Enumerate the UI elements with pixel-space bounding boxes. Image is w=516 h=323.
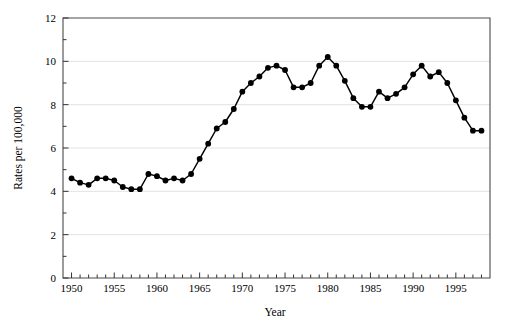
x-tick-label: 1970 <box>231 282 254 294</box>
data-point <box>410 71 416 77</box>
x-tick-label: 1975 <box>274 282 297 294</box>
data-point <box>342 78 348 84</box>
x-tick-label: 1950 <box>61 282 84 294</box>
x-tick-label: 1990 <box>402 282 425 294</box>
data-point <box>274 63 280 69</box>
data-point <box>94 175 100 181</box>
data-point <box>436 69 442 75</box>
y-tick-label: 10 <box>45 55 57 67</box>
data-point <box>128 186 134 192</box>
y-tick-label: 8 <box>51 99 57 111</box>
data-point <box>350 95 356 101</box>
y-tick-label: 0 <box>51 272 57 284</box>
data-point <box>479 128 485 134</box>
x-tick-label: 1985 <box>359 282 382 294</box>
data-point <box>163 178 169 184</box>
y-tick-label: 6 <box>51 142 57 154</box>
data-point <box>316 63 322 69</box>
data-point <box>146 171 152 177</box>
data-point <box>308 80 314 86</box>
data-point <box>77 180 83 186</box>
data-point <box>325 54 331 60</box>
data-point <box>171 175 177 181</box>
data-point <box>257 74 263 80</box>
y-axis-ticks <box>63 18 69 278</box>
series-line <box>72 57 482 189</box>
data-point <box>299 84 305 90</box>
data-point <box>444 80 450 86</box>
x-axis-tick-labels: 1950195519601965197019751980198519901995 <box>61 282 468 294</box>
data-point <box>137 186 143 192</box>
data-point <box>214 126 220 132</box>
data-point <box>402 84 408 90</box>
data-point <box>69 175 75 181</box>
y-tick-label: 2 <box>51 229 57 241</box>
x-tick-label: 1955 <box>103 282 126 294</box>
data-point <box>385 95 391 101</box>
data-point <box>205 141 211 147</box>
x-tick-label: 1980 <box>317 282 340 294</box>
data-point <box>291 84 297 90</box>
x-tick-label: 1965 <box>189 282 212 294</box>
data-point <box>359 104 365 110</box>
data-point <box>154 173 160 179</box>
x-axis-title: Year <box>264 306 285 318</box>
data-point <box>265 65 271 71</box>
data-point <box>419 63 425 69</box>
data-point <box>231 106 237 112</box>
data-point <box>188 171 194 177</box>
gridlines-group <box>63 61 490 234</box>
data-series-rates <box>69 54 485 192</box>
y-axis-title: Rates per 100,000 <box>12 106 25 190</box>
data-point <box>333 63 339 69</box>
chart-canvas: 1950195519601965197019751980198519901995… <box>0 0 516 323</box>
y-tick-label: 12 <box>45 12 56 24</box>
line-chart-figure: 1950195519601965197019751980198519901995… <box>0 0 516 323</box>
data-point <box>453 97 459 103</box>
data-point <box>376 89 382 95</box>
data-point <box>222 119 228 125</box>
data-point <box>180 178 186 184</box>
data-point <box>461 115 467 121</box>
data-point <box>86 182 92 188</box>
data-point <box>368 104 374 110</box>
data-point <box>427 74 433 80</box>
x-tick-label: 1995 <box>445 282 468 294</box>
x-axis-ticks <box>72 273 482 279</box>
x-tick-label: 1960 <box>146 282 169 294</box>
data-point <box>197 156 203 162</box>
data-point <box>393 91 399 97</box>
data-point <box>470 128 476 134</box>
data-point <box>282 67 288 73</box>
y-tick-label: 4 <box>51 185 57 197</box>
data-point <box>103 175 109 181</box>
data-point <box>239 89 245 95</box>
data-point <box>248 80 254 86</box>
data-point <box>111 178 117 184</box>
data-point <box>120 184 126 190</box>
y-axis-tick-labels: 024681012 <box>45 12 57 284</box>
